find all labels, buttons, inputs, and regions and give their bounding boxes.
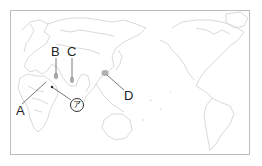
label-a-mark-circled: ア (70, 98, 84, 112)
point-a-mark (51, 86, 53, 88)
north-america-outline (172, 20, 244, 98)
leader-line-a (22, 82, 46, 104)
label-b: B (51, 45, 60, 58)
label-d: D (124, 89, 133, 102)
europe-outline (22, 20, 52, 74)
world-map (0, 0, 262, 166)
south-america-outline (204, 98, 234, 150)
australia-outline (102, 114, 132, 140)
leader-line-a-mark (52, 87, 71, 100)
label-c: C (67, 45, 76, 58)
leader-line-d (107, 75, 124, 90)
label-a: A (16, 104, 25, 117)
